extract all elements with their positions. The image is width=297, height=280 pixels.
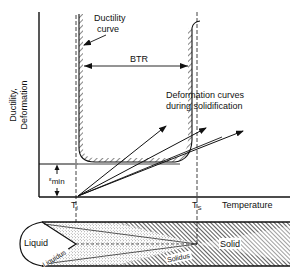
x-axis-label: Temperature <box>222 200 273 210</box>
y-axis-label-line1: Ductility, <box>8 88 18 121</box>
deformation-curve-4 <box>78 137 222 196</box>
deformation-label-line1: Deformation curves <box>166 90 245 100</box>
btr-label: BTR <box>130 54 149 64</box>
axes <box>39 12 290 197</box>
btr-indicator: BTR <box>84 54 188 69</box>
emin-indicator: εmin <box>39 164 180 197</box>
emin-label: εmin <box>49 176 65 186</box>
y-axis-label-line2: Deformation <box>19 80 29 129</box>
solid-label: Solid <box>220 239 240 249</box>
ductility-curve-label-line2: curve <box>97 24 119 34</box>
deformation-label-line2: during solidification <box>166 101 243 111</box>
ductility-curve-pointer <box>84 35 106 45</box>
liquid-label: Liquid <box>24 238 48 248</box>
ts-label: TS <box>192 200 202 211</box>
ductility-curve <box>79 14 200 162</box>
tl-label: Tl <box>71 200 78 211</box>
weld-pool-schematic: Liquid Liquidus Solidus Solid <box>20 222 290 269</box>
btr-diagram: Ductility, Deformation Temperature εmin … <box>0 0 297 280</box>
ductility-curve-label-line1: Ductility <box>94 13 126 23</box>
